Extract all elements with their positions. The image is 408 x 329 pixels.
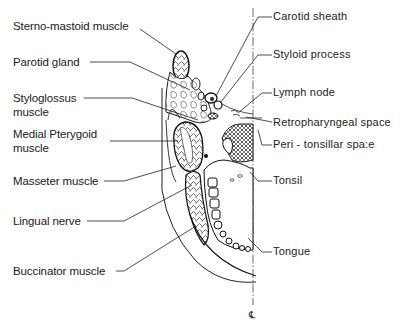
label-masseter: Masseter muscle [13, 175, 98, 188]
midline-symbol: ℄ [249, 308, 255, 321]
label-styloglossus-muscle: muscle [13, 106, 49, 119]
label-retropharyngeal-space: Retropharyngeal space [273, 116, 391, 129]
label-sterno-mastoid: Sterno-mastoid muscle [13, 20, 129, 33]
label-lingual-nerve: Lingual nerve [13, 215, 81, 228]
label-medial-pterygoid-muscle: muscle [13, 142, 49, 155]
label-parotid-gland: Parotid gland [13, 56, 79, 69]
label-styloid-process: Styloid process [273, 48, 351, 61]
label-tongue: Tongue [273, 245, 310, 258]
label-styloglossus: Styloglossus [13, 92, 76, 105]
anatomy-diagram: Sterno-mastoid muscle Parotid gland Styl… [0, 0, 408, 329]
label-carotid-sheath: Carotid sheath [273, 10, 347, 23]
label-medial-pterygoid: Medial Pterygoid [13, 128, 97, 141]
lingual-nerve-dot [204, 154, 208, 158]
label-peritonsillar-space: Peri - tonsillar spa:e [273, 138, 375, 151]
label-buccinator: Buccinator muscle [13, 265, 105, 278]
label-lymph-node: Lymph node [273, 86, 335, 99]
label-tonsil: Tonsil [273, 174, 302, 187]
